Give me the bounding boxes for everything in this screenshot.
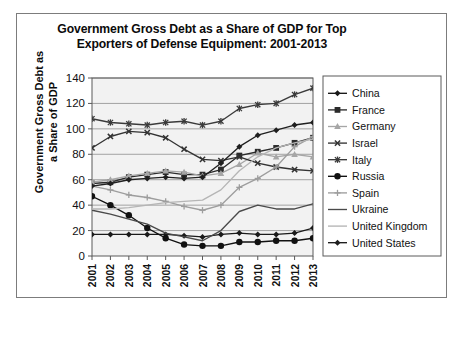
x-tick-label: 2012 (290, 264, 301, 287)
marker-circle (291, 238, 297, 244)
legend-label: Israel (352, 137, 378, 149)
line-chart: 0204060801001201402001200220032004200520… (17, 14, 448, 299)
x-tick-label: 2007 (198, 264, 209, 287)
marker-circle (162, 235, 168, 241)
legend-label: Spain (352, 187, 379, 199)
marker-circle (218, 243, 224, 249)
x-tick-label: 2003 (124, 264, 135, 287)
y-tick-label: 20 (72, 225, 85, 237)
chart-card: Government Gross Debt as a Share of GDP … (16, 13, 447, 298)
legend-label: Ukraine (352, 203, 389, 215)
marker-circle (273, 238, 279, 244)
marker-circle (126, 212, 132, 218)
legend-label: United Kingdom (352, 220, 428, 232)
marker-square (335, 107, 341, 113)
legend-label: Germany (352, 120, 396, 132)
marker-circle (334, 173, 340, 179)
y-tick-label: 60 (72, 174, 85, 186)
legend-label: United States (352, 237, 416, 249)
marker-circle (255, 239, 261, 245)
marker-circle (310, 235, 316, 241)
marker-circle (181, 241, 187, 247)
y-tick-label: 40 (72, 199, 85, 211)
legend-label: Russia (352, 170, 384, 182)
y-axis-title-line-2: a Share of GDP (47, 82, 59, 162)
y-tick-label: 120 (66, 97, 85, 109)
marker-circle (236, 239, 242, 245)
y-axis-title-line-1: Government Gross Debt as (33, 51, 45, 193)
y-tick-label: 100 (66, 123, 85, 135)
x-tick-label: 2001 (87, 264, 98, 287)
x-tick-label: 2004 (142, 264, 153, 287)
x-tick-label: 2010 (253, 264, 264, 287)
x-tick-label: 2009 (234, 264, 245, 287)
legend-label: France (352, 104, 385, 116)
x-tick-label: 2011 (271, 264, 282, 287)
y-tick-label: 140 (66, 72, 85, 84)
marker-circle (199, 243, 205, 249)
y-tick-label: 0 (79, 250, 85, 262)
x-tick-label: 2008 (216, 264, 227, 287)
x-tick-label: 2005 (161, 264, 172, 287)
legend-label: Italy (352, 154, 372, 166)
x-tick-label: 2006 (179, 264, 190, 287)
legend-label: China (352, 87, 380, 99)
marker-circle (107, 202, 113, 208)
marker-circle (89, 193, 95, 199)
y-tick-label: 80 (72, 148, 85, 160)
x-tick-label: 2002 (105, 264, 116, 287)
x-tick-label: 2013 (308, 264, 319, 287)
